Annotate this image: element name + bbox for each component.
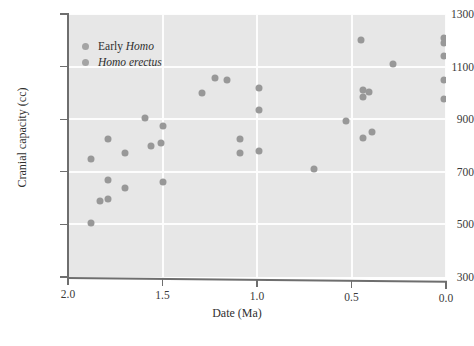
- data-point: [104, 176, 111, 183]
- data-point: [369, 129, 376, 136]
- legend: Early Homo Homo erectus: [82, 38, 162, 70]
- x-axis-tick-label: 0.0: [426, 292, 466, 304]
- data-point: [121, 150, 128, 157]
- legend-marker-icon: [82, 59, 89, 66]
- y-axis-tick-label: 500: [418, 218, 474, 230]
- y-axis-tick-label: 1100: [418, 61, 474, 73]
- data-point: [441, 76, 446, 83]
- data-point: [97, 197, 104, 204]
- x-axis-tick: [445, 281, 446, 289]
- data-point: [104, 196, 111, 203]
- gridline-vertical: [351, 14, 353, 277]
- data-point: [441, 96, 446, 103]
- x-axis-tick-label: 2.0: [48, 288, 88, 300]
- data-point: [157, 139, 164, 146]
- gridline-horizontal: [68, 223, 446, 225]
- data-point: [342, 117, 349, 124]
- y-axis-tick: [60, 171, 68, 172]
- data-point: [359, 134, 366, 141]
- data-point: [223, 76, 230, 83]
- gridline-horizontal: [68, 118, 446, 120]
- data-point: [148, 142, 155, 149]
- data-point: [390, 60, 397, 67]
- x-axis-tick: [256, 279, 257, 287]
- y-axis-tick-label: 1300: [418, 8, 474, 20]
- x-axis-tick-label: 0.5: [332, 291, 372, 303]
- x-axis-tick: [67, 277, 68, 285]
- x-axis-tick-label: 1.0: [237, 290, 277, 302]
- data-point: [236, 150, 243, 157]
- data-point: [359, 93, 366, 100]
- gridline-horizontal: [68, 171, 446, 173]
- y-axis-tick-label: 700: [418, 166, 474, 178]
- data-point: [365, 88, 372, 95]
- x-axis-tick: [162, 278, 163, 286]
- data-point: [441, 39, 446, 46]
- y-axis-title: Cranial capacity (cc): [15, 38, 30, 238]
- data-point: [310, 166, 317, 173]
- x-axis-tick: [351, 280, 352, 288]
- data-point: [236, 135, 243, 142]
- y-axis-tick: [60, 119, 68, 120]
- data-point: [159, 179, 166, 186]
- y-axis-tick: [60, 13, 68, 14]
- data-point: [255, 84, 262, 91]
- data-point: [212, 75, 219, 82]
- data-point: [104, 135, 111, 142]
- data-point: [159, 122, 166, 129]
- gridline-vertical: [256, 14, 258, 277]
- scatter-chart-figure: 30050070090011001300 2.01.51.00.50.0 Dat…: [0, 0, 474, 346]
- data-point: [142, 114, 149, 121]
- legend-marker-icon: [82, 43, 89, 50]
- y-axis-tick: [60, 224, 68, 225]
- legend-item-homo-erectus: Homo erectus: [82, 54, 162, 70]
- data-point: [87, 155, 94, 162]
- data-point: [255, 147, 262, 154]
- data-point: [441, 53, 446, 60]
- data-point: [121, 184, 128, 191]
- y-axis-tick-label: 900: [418, 113, 474, 125]
- data-point: [199, 89, 206, 96]
- x-axis-tick-label: 1.5: [143, 289, 183, 301]
- y-axis-tick: [60, 66, 68, 67]
- legend-label-homo-erectus: Homo erectus: [98, 54, 162, 70]
- data-point: [87, 220, 94, 227]
- data-point: [255, 106, 262, 113]
- x-axis-title: Date (Ma): [0, 306, 474, 321]
- gridline-horizontal: [68, 14, 446, 15]
- y-axis-line: [67, 13, 69, 278]
- legend-label-early-homo: Early Homo: [98, 38, 154, 54]
- legend-item-early-homo: Early Homo: [82, 38, 162, 54]
- data-point: [357, 37, 364, 44]
